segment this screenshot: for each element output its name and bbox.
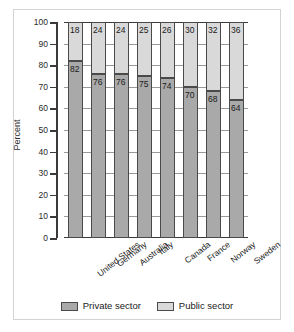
bar-value-label-public: 32 xyxy=(208,26,217,35)
bar-value-label-private: 68 xyxy=(208,95,217,104)
y-axis-tick-mark xyxy=(50,44,57,46)
chart-figure: Percent 1009080706050403020100 188224762… xyxy=(0,0,294,332)
y-axis-tick-mark xyxy=(50,195,57,197)
y-axis-tick-mark xyxy=(50,22,57,24)
y-axis-tick-label: 100 xyxy=(22,18,48,27)
bar-segment-private-sector[interactable]: 76 xyxy=(91,74,106,238)
bar-segment-public-sector[interactable]: 32 xyxy=(206,22,221,91)
bar-segment-private-sector[interactable]: 64 xyxy=(229,100,244,238)
bar-value-label-private: 75 xyxy=(139,80,148,89)
legend-item[interactable]: Private sector xyxy=(61,301,141,311)
legend-label: Public sector xyxy=(179,301,233,311)
y-axis-tick-mark xyxy=(50,152,57,154)
bar-segment-private-sector[interactable]: 74 xyxy=(160,78,175,238)
bar-group[interactable]: 3268 xyxy=(206,22,221,238)
bar-segment-public-sector[interactable]: 24 xyxy=(114,22,129,74)
y-axis-tick-label: 0 xyxy=(22,234,48,243)
y-axis-tick-mark xyxy=(50,238,57,240)
bar-segment-public-sector[interactable]: 18 xyxy=(68,22,83,61)
bar-value-label-public: 30 xyxy=(185,26,194,35)
bar-value-label-public: 26 xyxy=(162,26,171,35)
legend-label: Private sector xyxy=(83,301,141,311)
y-axis-tick-label: 60 xyxy=(22,104,48,113)
bar-group[interactable]: 1882 xyxy=(68,22,83,238)
y-axis-tick-label: 90 xyxy=(22,40,48,49)
y-axis-tick-label: 20 xyxy=(22,191,48,200)
y-axis-tick-mark xyxy=(50,87,57,89)
bar-segment-public-sector[interactable]: 36 xyxy=(229,22,244,100)
bar-group[interactable]: 2674 xyxy=(160,22,175,238)
bar-segment-private-sector[interactable]: 75 xyxy=(137,76,152,238)
y-axis-tick-label: 10 xyxy=(22,212,48,221)
y-axis-tick-label: 80 xyxy=(22,61,48,70)
bar-value-label-private: 82 xyxy=(70,65,79,74)
bar-group[interactable]: 2575 xyxy=(137,22,152,238)
bar-segment-public-sector[interactable]: 30 xyxy=(183,22,198,87)
bar-group[interactable]: 3664 xyxy=(229,22,244,238)
bar-value-label-private: 76 xyxy=(93,78,102,87)
chart-legend: Private sectorPublic sector xyxy=(13,296,281,316)
bar-segment-private-sector[interactable]: 76 xyxy=(114,74,129,238)
bar-group[interactable]: 2476 xyxy=(114,22,129,238)
y-axis-tick-label: 70 xyxy=(22,83,48,92)
bar-segment-public-sector[interactable]: 24 xyxy=(91,22,106,74)
y-axis-tick-label: 50 xyxy=(22,126,48,135)
y-axis-tick-label: 40 xyxy=(22,148,48,157)
y-axis-tick-mark xyxy=(50,216,57,218)
bar-value-label-public: 24 xyxy=(93,26,102,35)
bar-value-label-public: 25 xyxy=(139,26,148,35)
y-axis-tick-label: 30 xyxy=(22,169,48,178)
bar-segment-private-sector[interactable]: 70 xyxy=(183,87,198,238)
y-axis-tick-labels: 1009080706050403020100 xyxy=(16,22,48,238)
legend-swatch xyxy=(157,302,174,311)
bar-segment-public-sector[interactable]: 26 xyxy=(160,22,175,78)
bar-value-label-public: 36 xyxy=(231,26,240,35)
bar-segment-private-sector[interactable]: 82 xyxy=(68,61,83,238)
y-axis-tick-mark xyxy=(50,130,57,132)
bar-value-label-private: 76 xyxy=(116,78,125,87)
y-axis-tick-mark xyxy=(50,65,57,67)
bar-value-label-public: 18 xyxy=(70,26,79,35)
bar-group[interactable]: 3070 xyxy=(183,22,198,238)
bar-segment-private-sector[interactable]: 68 xyxy=(206,91,221,238)
bar-value-label-private: 64 xyxy=(231,104,240,113)
legend-swatch xyxy=(61,302,78,311)
bar-segment-public-sector[interactable]: 25 xyxy=(137,22,152,76)
bar-value-label-private: 70 xyxy=(185,91,194,100)
y-axis-tick-mark xyxy=(50,173,57,175)
bar-group[interactable]: 2476 xyxy=(91,22,106,238)
bar-value-label-public: 24 xyxy=(116,26,125,35)
y-axis-tick-mark xyxy=(50,108,57,110)
legend-item[interactable]: Public sector xyxy=(157,301,233,311)
x-axis-category-labels: United StatesGermanyAustraliaItalyCanada… xyxy=(64,240,248,288)
bar-value-label-private: 74 xyxy=(162,82,171,91)
plot-area: 18822476247625752674307032683664 xyxy=(64,22,248,238)
